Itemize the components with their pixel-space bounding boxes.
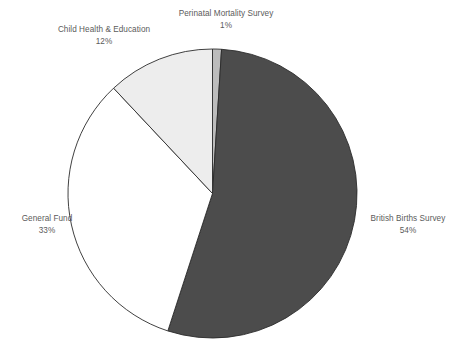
pie-chart: Perinatal Mortality Survey 1% Child Heal… [0, 0, 453, 344]
slice-label-child-health-education: Child Health & Education 12% [28, 24, 180, 47]
slice-label-general-fund: General Fund 33% [2, 213, 92, 236]
slice-label-name: General Fund [2, 213, 92, 225]
slice-label-name: Child Health & Education [28, 24, 180, 36]
slice-label-value: 33% [2, 225, 92, 237]
slice-label-name: Perinatal Mortality Survey [146, 8, 306, 20]
pie-chart-canvas [0, 0, 453, 344]
slice-label-value: 12% [28, 36, 180, 48]
slice-label-name: British Births Survey [363, 213, 453, 225]
slice-label-value: 54% [363, 225, 453, 237]
slice-label-british-births-survey: British Births Survey 54% [363, 213, 453, 236]
pie-slice-group [68, 49, 357, 338]
